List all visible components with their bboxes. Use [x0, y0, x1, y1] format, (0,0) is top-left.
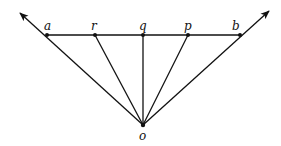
point-b: [238, 33, 242, 37]
label-b: b: [232, 19, 240, 33]
point-p: [186, 33, 190, 37]
point-a: [45, 33, 49, 37]
label-p: p: [184, 19, 192, 33]
label-a: a: [44, 19, 51, 33]
ray-oa-arrow: [20, 13, 143, 125]
point-r: [93, 33, 97, 37]
ray-ob-arrow: [143, 11, 269, 125]
label-q: q: [139, 19, 147, 33]
segment-or: [95, 35, 143, 125]
point-q: [141, 33, 145, 37]
segment-op: [143, 35, 188, 125]
label-r: r: [91, 19, 98, 33]
label-o: o: [139, 129, 146, 143]
point-o: [141, 123, 145, 127]
fan-diagram: a r q p b o: [0, 0, 281, 146]
